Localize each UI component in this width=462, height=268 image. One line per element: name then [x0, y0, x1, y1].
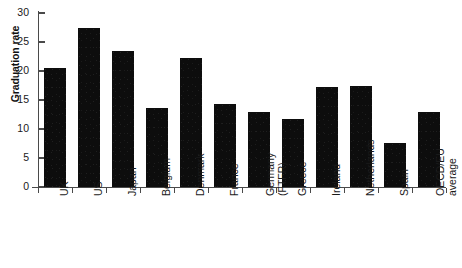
x-axis-label: Greece: [297, 162, 309, 196]
x-axis-tick-mark: [106, 188, 107, 193]
bar-item: [44, 13, 66, 187]
x-axis-tick-mark: [310, 188, 311, 193]
x-axis-tick-mark: [412, 188, 413, 193]
bar-item: [112, 13, 134, 187]
x-axis-tick-mark: [72, 188, 73, 193]
y-axis-tick-label: 30: [17, 6, 29, 19]
y-axis-tick-label: 25: [17, 35, 29, 48]
x-axis-label: Ireland: [331, 164, 343, 196]
x-axis-tick-mark: [242, 188, 243, 193]
bar-item: [384, 13, 406, 187]
y-axis-tick-label: 5: [23, 151, 29, 164]
bar-item: [214, 13, 236, 187]
x-axis-tick-mark: [174, 188, 175, 193]
x-axis-tick-mark: [378, 188, 379, 193]
x-axis-label: Japan: [127, 167, 139, 196]
plot-area: 051015202530: [38, 13, 446, 187]
bar-item: [316, 13, 338, 187]
bar-item: [78, 13, 100, 187]
y-axis-tick-label: 15: [17, 93, 29, 106]
x-axis-label: UK: [59, 181, 71, 196]
x-axis-label: France: [229, 163, 241, 196]
x-axis-label: Germany(FTFR): [265, 130, 288, 196]
x-axis-tick-mark: [344, 188, 345, 193]
x-axis-label: Spain: [399, 169, 411, 196]
y-axis-tick-label: 0: [23, 180, 29, 193]
y-axis-tick-label: 20: [17, 64, 29, 77]
x-axis-label: Denmark: [195, 153, 207, 196]
x-axis-tick-mark: [208, 188, 209, 193]
x-axis-label: OECD/EUaverage: [435, 130, 458, 196]
y-axis-tick-label: 10: [17, 122, 29, 135]
x-axis-tick-mark: [140, 188, 141, 193]
bar-chart: Graduation rate 051015202530 UKUSJapanBe…: [0, 0, 462, 268]
x-axis-label: Belgium: [161, 158, 173, 196]
x-axis-label: US: [93, 181, 105, 196]
x-axis-label: Netherlands: [365, 139, 377, 196]
x-axis-tick-mark: [38, 188, 39, 193]
bar: [78, 28, 100, 187]
bar: [44, 68, 66, 187]
